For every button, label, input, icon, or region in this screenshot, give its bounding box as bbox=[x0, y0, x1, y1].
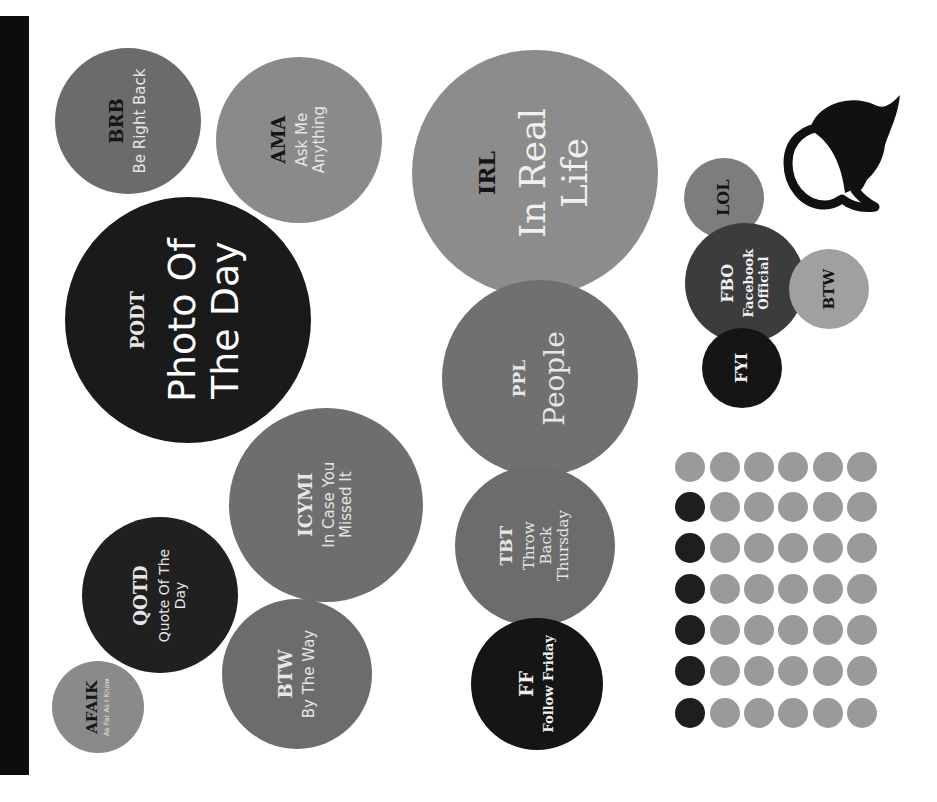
bubble-meaning: Quote Of The Day bbox=[156, 548, 188, 641]
dot-light bbox=[744, 492, 774, 522]
bubble-abbreviation: LOL bbox=[715, 180, 733, 216]
bubble-meaning: Ask Me Anything bbox=[294, 106, 329, 173]
bubble-label: ICYMIIn Case You Missed It bbox=[296, 462, 355, 548]
dot-light bbox=[847, 698, 877, 728]
bubble-label: BTW bbox=[821, 269, 838, 310]
bubble-meaning: Follow Friday bbox=[542, 635, 557, 732]
bubble-abbreviation: BTW bbox=[276, 650, 296, 699]
bubble-label: PODTPhoto Of The Day bbox=[128, 238, 248, 402]
dot-light bbox=[710, 533, 740, 563]
bubble-ama: AMAAsk Me Anything bbox=[216, 57, 382, 223]
dot-dark bbox=[675, 574, 705, 604]
dot-light bbox=[778, 698, 808, 728]
bubble-btw-2: BTW bbox=[789, 249, 869, 329]
dot-light bbox=[675, 452, 705, 482]
bubble-label: TBTThrow Back Thursday bbox=[497, 510, 572, 581]
bubble-fbo: FBOFacebook Official bbox=[685, 223, 805, 343]
dot-light bbox=[744, 452, 774, 482]
side-bar bbox=[0, 16, 29, 775]
dot-light bbox=[710, 656, 740, 686]
bubble-abbreviation: PODT bbox=[128, 291, 148, 349]
bubble-afaik: AFAIKAs Far As I Know bbox=[52, 661, 144, 753]
dot-dark bbox=[675, 533, 705, 563]
bubble-abbreviation: BTW bbox=[821, 269, 838, 310]
dot-light bbox=[744, 574, 774, 604]
dot-light bbox=[744, 615, 774, 645]
dot-light bbox=[813, 533, 843, 563]
dot-dark bbox=[675, 656, 705, 686]
bubble-meaning: Facebook Official bbox=[741, 249, 771, 318]
bubble-label: BRBBe Right Back bbox=[107, 69, 149, 174]
bubble-abbreviation: IRL bbox=[475, 151, 499, 195]
bubble-abbreviation: FBO bbox=[719, 263, 737, 302]
bubble-abbreviation: ICYMI bbox=[296, 473, 316, 537]
dot-light bbox=[744, 533, 774, 563]
bubble-abbreviation: TBT bbox=[497, 526, 516, 566]
bubble-brb: BRBBe Right Back bbox=[55, 48, 201, 194]
dot-light bbox=[813, 656, 843, 686]
dot-light bbox=[813, 452, 843, 482]
dot-light bbox=[778, 452, 808, 482]
dot-light bbox=[710, 452, 740, 482]
dot-light bbox=[778, 574, 808, 604]
bubble-meaning: By The Way bbox=[301, 630, 318, 719]
bubble-label: FFFollow Friday bbox=[517, 635, 557, 732]
dot-light bbox=[778, 492, 808, 522]
bubble-fyi: FYI bbox=[702, 328, 782, 408]
bubble-label: LOL bbox=[715, 180, 733, 216]
bubble-abbreviation: BRB bbox=[107, 98, 127, 143]
dot-light bbox=[710, 492, 740, 522]
dot-light bbox=[778, 615, 808, 645]
bubble-meaning: In Real Life bbox=[512, 108, 595, 238]
dot-dark bbox=[675, 698, 705, 728]
dot-light bbox=[744, 656, 774, 686]
dot-light bbox=[847, 533, 877, 563]
bubble-btw-1: BTWBy The Way bbox=[222, 599, 372, 749]
bubble-abbreviation: AFAIK bbox=[85, 680, 102, 733]
bubble-ppl: PPLPeople bbox=[442, 280, 638, 476]
dot-dark bbox=[675, 492, 705, 522]
dot-light bbox=[710, 615, 740, 645]
bubble-label: QOTDQuote Of The Day bbox=[132, 548, 189, 641]
dot-light bbox=[813, 615, 843, 645]
bubble-abbreviation: AMA bbox=[269, 116, 289, 164]
dot-light bbox=[847, 615, 877, 645]
dot-light bbox=[847, 656, 877, 686]
dot-light bbox=[744, 698, 774, 728]
bubble-ff: FFFollow Friday bbox=[471, 618, 603, 750]
dot-light bbox=[813, 492, 843, 522]
bubble-irl: IRLIn Real Life bbox=[412, 50, 658, 296]
bubble-meaning: Throw Back Thursday bbox=[521, 510, 573, 581]
dot-light bbox=[847, 574, 877, 604]
bubble-label: FBOFacebook Official bbox=[719, 249, 771, 318]
dot-light bbox=[778, 533, 808, 563]
bubble-podt: PODTPhoto Of The Day bbox=[65, 197, 311, 443]
bubble-meaning: In Case You Missed It bbox=[321, 462, 356, 548]
dot-light bbox=[847, 452, 877, 482]
dot-light bbox=[847, 492, 877, 522]
bubble-label: AMAAsk Me Anything bbox=[269, 106, 328, 173]
dot-light bbox=[813, 698, 843, 728]
bubble-tbt: TBTThrow Back Thursday bbox=[455, 466, 615, 626]
bubble-abbreviation: PPL bbox=[510, 359, 529, 397]
bubble-label: PPLPeople bbox=[510, 331, 571, 425]
speech-bubbles-icon bbox=[770, 85, 910, 235]
bubble-qotd: QOTDQuote Of The Day bbox=[82, 517, 238, 673]
bubble-meaning: People bbox=[538, 331, 570, 425]
bubble-meaning: As Far As I Know bbox=[103, 678, 111, 735]
bubble-label: FYI bbox=[733, 353, 751, 383]
bubble-icymi: ICYMIIn Case You Missed It bbox=[229, 408, 423, 602]
dot-light bbox=[778, 656, 808, 686]
dot-light bbox=[710, 574, 740, 604]
bubble-abbreviation: FYI bbox=[733, 353, 751, 383]
bubble-meaning: Photo Of The Day bbox=[161, 238, 248, 402]
dot-dark bbox=[675, 615, 705, 645]
bubble-abbreviation: FF bbox=[517, 671, 537, 697]
bubble-label: IRLIn Real Life bbox=[475, 108, 595, 238]
dot-light bbox=[813, 574, 843, 604]
bubble-meaning: Be Right Back bbox=[132, 69, 149, 174]
bubble-label: AFAIKAs Far As I Know bbox=[85, 678, 112, 735]
dot-light bbox=[710, 698, 740, 728]
bubble-label: BTWBy The Way bbox=[276, 630, 318, 719]
bubble-abbreviation: QOTD bbox=[132, 565, 152, 625]
